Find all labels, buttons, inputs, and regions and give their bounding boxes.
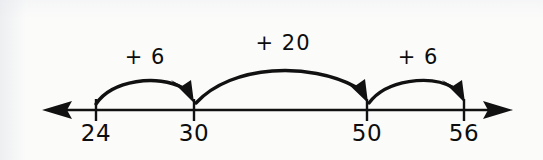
jump-arrow-head-2 bbox=[344, 79, 368, 103]
jump-label-1: + 6 bbox=[125, 45, 166, 69]
jump-arrow-head-1 bbox=[171, 80, 194, 103]
tick-label-30: 30 bbox=[179, 120, 209, 146]
jump-arc-3 bbox=[369, 81, 454, 103]
jump-label-3: + 6 bbox=[398, 45, 439, 69]
jump-arc-2 bbox=[196, 71, 356, 103]
tick-label-50: 50 bbox=[352, 120, 382, 146]
jump-label-2: + 20 bbox=[256, 31, 311, 55]
tick-label-56: 56 bbox=[449, 120, 479, 146]
tick-label-24: 24 bbox=[81, 120, 111, 146]
number-line-figure: + 6 + 20 + 6 24 30 50 56 bbox=[0, 0, 543, 160]
number-line-diagram: + 6 + 20 + 6 24 30 50 56 bbox=[0, 0, 543, 160]
jump-arc-1 bbox=[96, 81, 183, 104]
jump-arrow-head-3 bbox=[442, 80, 465, 103]
